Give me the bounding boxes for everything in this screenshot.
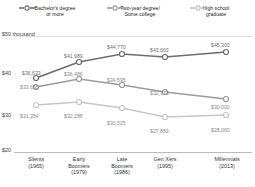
data-label-two-year-gen-xers: $32,173: [150, 90, 169, 96]
data-label-high-school-late-boomers: $30,525: [107, 120, 126, 126]
x-tick-early-boomers: Early Boomers (1979): [59, 156, 99, 176]
data-label-two-year-silents: $33,655: [20, 84, 39, 90]
data-label-bachelors-millennials: $45,300: [211, 42, 230, 48]
y-tick-40: $40: [2, 70, 11, 76]
data-label-bachelors-gen-xers: $43,663: [150, 47, 169, 53]
data-label-bachelors-silents: $36,633: [22, 70, 41, 76]
data-label-bachelors-late-boomers: $44,770: [107, 44, 126, 50]
y-tick-50: $50 thousand: [2, 31, 35, 37]
y-tick-20: $20: [2, 147, 11, 153]
x-tick-millennials: Millennials (2013): [204, 156, 250, 169]
x-tick-silents: Silents (1965): [16, 156, 56, 169]
data-label-high-school-early-boomers: $32,288: [64, 113, 83, 119]
x-tick-gen-xers: Gen Xers (1995): [145, 156, 185, 169]
data-label-high-school-gen-xers: $27,883: [150, 128, 169, 134]
data-label-bachelors-early-boomers: $41,989: [64, 53, 83, 59]
series-line-two-year: [36, 79, 226, 99]
data-label-two-year-late-boomers: $34,595: [107, 77, 126, 83]
data-label-high-school-silents: $31,354: [20, 113, 39, 119]
data-label-two-year-early-boomers: $36,486: [64, 71, 83, 77]
data-label-two-year-millennials: $30,000: [211, 104, 230, 110]
earnings-by-generation-chart: Bachelor's degree or more Two-year degre…: [0, 0, 255, 187]
x-tick-late-boomers: Late Boomers (1986): [102, 156, 142, 176]
data-label-high-school-millennials: $28,000: [211, 127, 230, 133]
y-tick-30: $30: [2, 112, 11, 118]
